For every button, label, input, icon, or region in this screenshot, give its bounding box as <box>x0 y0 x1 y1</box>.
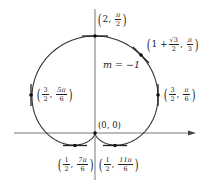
label-bottom-left: ( 12 , 7π6 ) <box>57 157 94 172</box>
point-bottom-right <box>113 144 117 148</box>
point-left <box>29 93 33 97</box>
point-slope <box>139 53 143 57</box>
label-right-vertical: ( 32 , π6 ) <box>163 87 196 102</box>
label-top: (2, π2 ) <box>97 12 128 27</box>
label-slope-point: (1 + √32 , π3 ) <box>146 37 199 52</box>
point-top <box>93 34 97 38</box>
slope-label: m = −1 <box>103 60 140 70</box>
point-bottom-left <box>73 144 77 148</box>
label-origin: (0, 0) <box>98 121 121 130</box>
point-right <box>156 93 160 97</box>
label-left-vertical: ( 32 , 5π6 ) <box>36 87 73 102</box>
x-axis-arrow-icon <box>188 131 196 136</box>
point-origin <box>93 131 97 135</box>
label-bottom-right: ( 12 , 11π6 ) <box>98 157 139 172</box>
